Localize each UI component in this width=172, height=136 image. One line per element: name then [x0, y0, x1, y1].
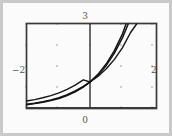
axis-label-left: −2 — [12, 66, 25, 75]
axis-label-bottom: 0 — [82, 116, 88, 125]
figure-card: 3 0 −2 2 — [3, 3, 169, 133]
plot-svg — [3, 3, 169, 133]
plot-area — [3, 3, 169, 133]
axis-label-right: 2 — [151, 66, 157, 75]
axis-label-top: 3 — [82, 12, 88, 21]
figure-container: 3 0 −2 2 — [0, 0, 172, 136]
panel-background — [3, 3, 169, 133]
